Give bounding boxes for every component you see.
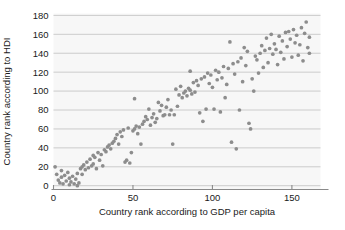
y-tick-label-20: 20 bbox=[38, 161, 49, 172]
data-point bbox=[77, 181, 81, 185]
data-point bbox=[253, 54, 257, 58]
data-point bbox=[190, 92, 194, 96]
data-point bbox=[252, 89, 256, 93]
data-point bbox=[223, 96, 227, 100]
data-point bbox=[91, 162, 95, 166]
data-point bbox=[249, 127, 253, 131]
data-point bbox=[75, 172, 79, 176]
y-axis-title: Country rank according to HDI bbox=[1, 38, 12, 166]
data-point bbox=[125, 158, 129, 162]
y-tick-label-140: 140 bbox=[33, 48, 49, 59]
data-point bbox=[53, 165, 57, 169]
data-point bbox=[157, 101, 161, 105]
data-point bbox=[83, 168, 87, 172]
data-point bbox=[133, 97, 137, 101]
data-point bbox=[199, 77, 203, 81]
data-point bbox=[214, 68, 218, 72]
data-point bbox=[88, 157, 92, 161]
data-point bbox=[180, 96, 184, 100]
data-point bbox=[85, 160, 89, 164]
y-tick-label-100: 100 bbox=[33, 85, 49, 96]
data-point bbox=[225, 83, 229, 87]
data-point bbox=[274, 48, 278, 52]
data-point bbox=[277, 34, 281, 38]
data-point bbox=[158, 109, 162, 113]
data-point bbox=[296, 53, 300, 57]
data-point bbox=[265, 36, 269, 40]
data-point bbox=[174, 87, 178, 91]
data-point bbox=[290, 55, 294, 59]
data-point bbox=[172, 113, 176, 117]
data-point bbox=[95, 167, 99, 171]
data-point bbox=[281, 39, 285, 43]
data-point bbox=[63, 173, 67, 177]
x-tick-label-100: 100 bbox=[204, 192, 220, 203]
data-point bbox=[244, 64, 248, 68]
data-point bbox=[258, 51, 262, 55]
y-tick-label-0: 0 bbox=[43, 180, 48, 191]
data-point bbox=[220, 76, 224, 80]
data-point bbox=[120, 135, 124, 139]
data-point bbox=[176, 104, 180, 108]
data-point bbox=[171, 142, 175, 146]
y-tick-label-120: 120 bbox=[33, 67, 49, 78]
data-point bbox=[263, 49, 267, 53]
data-point bbox=[268, 47, 272, 51]
data-point bbox=[74, 177, 78, 181]
data-point bbox=[152, 112, 156, 116]
data-point bbox=[261, 66, 265, 70]
data-point bbox=[295, 33, 299, 37]
data-point bbox=[255, 58, 259, 62]
data-point bbox=[139, 142, 143, 146]
y-tick-label-180: 180 bbox=[33, 10, 49, 21]
data-point bbox=[177, 93, 181, 97]
data-point bbox=[207, 82, 211, 86]
data-point bbox=[203, 75, 207, 79]
data-point bbox=[230, 140, 234, 144]
data-point bbox=[55, 173, 59, 177]
data-point bbox=[271, 52, 275, 56]
data-point bbox=[236, 60, 240, 64]
data-point bbox=[155, 117, 159, 121]
data-point bbox=[134, 124, 138, 128]
data-point bbox=[107, 143, 111, 147]
data-point bbox=[250, 77, 254, 81]
data-point bbox=[279, 50, 283, 54]
data-point bbox=[153, 120, 157, 124]
y-tick-label-160: 160 bbox=[33, 29, 49, 40]
data-point bbox=[298, 43, 302, 47]
data-point bbox=[72, 182, 76, 186]
data-point bbox=[104, 150, 108, 154]
y-tick-label-40: 40 bbox=[38, 142, 49, 153]
data-point bbox=[96, 151, 100, 155]
data-point bbox=[226, 67, 230, 71]
data-point bbox=[209, 73, 213, 77]
data-point bbox=[64, 179, 68, 183]
data-point bbox=[303, 32, 307, 36]
data-point bbox=[93, 155, 97, 159]
x-axis-tick-labels: 050100150 bbox=[51, 192, 300, 203]
data-point bbox=[257, 71, 261, 75]
x-tick-label-50: 50 bbox=[128, 192, 139, 203]
data-point bbox=[247, 121, 251, 125]
data-point bbox=[61, 182, 65, 186]
data-point bbox=[66, 171, 70, 175]
data-point bbox=[80, 173, 84, 177]
data-point bbox=[101, 164, 105, 168]
data-point bbox=[160, 103, 164, 107]
data-point bbox=[118, 130, 122, 134]
data-point bbox=[201, 120, 205, 124]
data-point bbox=[184, 89, 188, 93]
data-point bbox=[239, 56, 243, 60]
data-point bbox=[82, 163, 86, 167]
data-point bbox=[211, 85, 215, 89]
data-point bbox=[147, 107, 151, 111]
data-point bbox=[285, 45, 289, 49]
data-point bbox=[109, 147, 113, 151]
data-point bbox=[234, 147, 238, 151]
data-point bbox=[222, 65, 226, 69]
data-point bbox=[241, 80, 245, 84]
data-point bbox=[308, 35, 312, 39]
data-point bbox=[145, 118, 149, 122]
data-point bbox=[58, 181, 62, 185]
